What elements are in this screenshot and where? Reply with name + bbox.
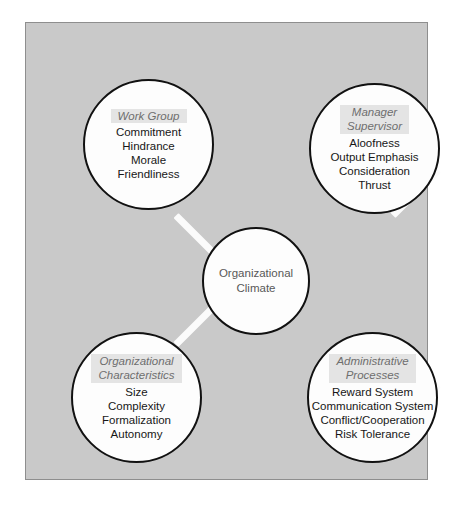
node-work-group-title: Work Group (111, 109, 187, 123)
node-administrative-processes-items: Reward System Communication System Confl… (312, 385, 433, 441)
node-organizational-characteristics-title: Organizational Characteristics (91, 354, 181, 383)
node-work-group-title-line1: Work Group (118, 109, 180, 123)
node-organizational-characteristics-title-line2: Characteristics (98, 369, 174, 383)
node-manager-supervisor-title: Manager Supervisor (340, 105, 409, 134)
list-item: Consideration (330, 164, 418, 178)
node-work-group-items: Commitment Hindrance Morale Friendliness (116, 125, 181, 181)
list-item: Formalization (102, 413, 171, 427)
node-work-group: Work Group Commitment Hindrance Morale F… (83, 79, 214, 210)
node-organizational-characteristics-items: Size Complexity Formalization Autonomy (102, 385, 171, 441)
center-label-line2: Climate (219, 281, 293, 296)
organizational-climate-diagram: Work Group Commitment Hindrance Morale F… (0, 0, 453, 505)
list-item: Autonomy (102, 427, 171, 441)
center-label-line1: Organizational (219, 266, 293, 281)
center-label: Organizational Climate (219, 266, 293, 296)
list-item: Aloofness (330, 136, 418, 150)
node-manager-supervisor-items: Aloofness Output Emphasis Consideration … (330, 136, 418, 192)
node-manager-supervisor: Manager Supervisor Aloofness Output Emph… (309, 83, 440, 214)
list-item: Reward System (312, 385, 433, 399)
node-administrative-processes-title: Administrative Processes (329, 354, 415, 383)
node-manager-supervisor-title-line2: Supervisor (347, 120, 402, 134)
node-manager-supervisor-title-line1: Manager (347, 106, 402, 120)
list-item: Thrust (330, 178, 418, 192)
node-organizational-characteristics: Organizational Characteristics Size Comp… (71, 332, 202, 463)
list-item: Conflict/Cooperation (312, 413, 433, 427)
list-item: Output Emphasis (330, 150, 418, 164)
diagram-panel: Work Group Commitment Hindrance Morale F… (25, 22, 428, 480)
list-item: Friendliness (116, 167, 181, 181)
node-organizational-characteristics-title-line1: Organizational (98, 355, 174, 369)
node-administrative-processes: Administrative Processes Reward System C… (307, 332, 438, 463)
list-item: Complexity (102, 399, 171, 413)
node-organizational-climate: Organizational Climate (202, 227, 310, 335)
list-item: Commitment (116, 125, 181, 139)
list-item: Morale (116, 153, 181, 167)
list-item: Size (102, 385, 171, 399)
list-item: Hindrance (116, 139, 181, 153)
node-administrative-processes-title-line2: Processes (336, 369, 408, 383)
list-item: Risk Tolerance (312, 427, 433, 441)
list-item: Communication System (312, 399, 433, 413)
node-administrative-processes-title-line1: Administrative (336, 355, 408, 369)
